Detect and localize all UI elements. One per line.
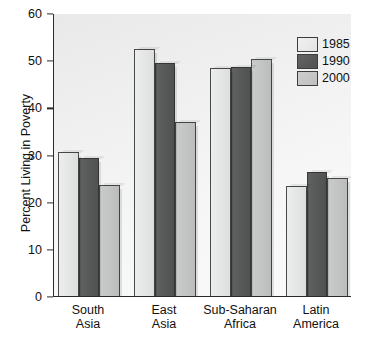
bar-latin-america-2000: [327, 178, 348, 296]
x-group-label-latin-america: LatinAmerica: [256, 303, 366, 331]
bar-latin-america-1990: [307, 172, 328, 296]
bar-east-asia-1985: [134, 49, 155, 296]
bar-east-asia-2000: [175, 122, 196, 296]
legend-swatch-2000: [297, 71, 318, 86]
bar-latin-america-1985: [286, 186, 307, 296]
y-axis-title: Percent Living in Poverty: [19, 53, 33, 273]
bar-sub-saharan-africa-1985: [210, 68, 231, 296]
y-tick-0: 0: [35, 291, 42, 304]
bar-south-asia-1990: [79, 158, 100, 296]
legend-label-1985: 1985: [322, 38, 350, 51]
poverty-bar-chart: 6050403020100 Percent Living in Poverty …: [0, 0, 366, 340]
legend-item-1990: 1990: [297, 53, 359, 69]
legend-label-2000: 2000: [322, 72, 350, 85]
x-group-label-line: America: [256, 317, 366, 331]
x-group-label-line: Latin: [256, 303, 366, 317]
legend-swatch-1990: [297, 54, 318, 69]
bar-sub-saharan-africa-1990: [231, 67, 252, 296]
legend-item-1985: 1985: [297, 36, 359, 52]
legend-swatch-1985: [297, 37, 318, 52]
bar-sub-saharan-africa-2000: [251, 59, 272, 296]
y-tick-60: 60: [28, 8, 42, 21]
bar-south-asia-1985: [58, 152, 79, 296]
legend: 198519902000: [297, 36, 359, 87]
legend-item-2000: 2000: [297, 70, 359, 86]
bar-east-asia-1990: [155, 63, 176, 296]
bar-south-asia-2000: [99, 185, 120, 296]
legend-label-1990: 1990: [322, 55, 350, 68]
